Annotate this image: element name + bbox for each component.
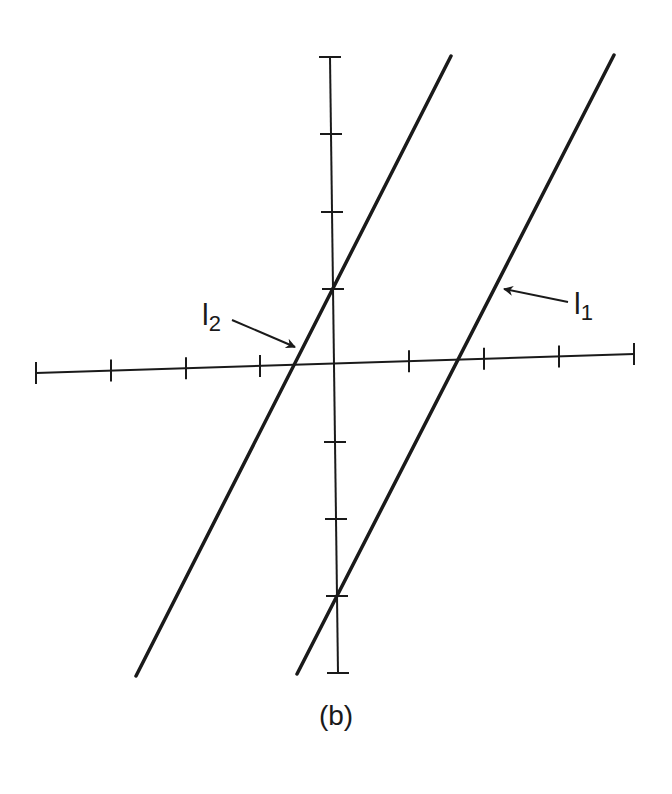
figure-caption: (b) bbox=[0, 700, 672, 732]
diagram-canvas bbox=[0, 0, 672, 794]
line-label-l2: l2 bbox=[202, 298, 221, 337]
line-label-l1-main: l bbox=[574, 287, 581, 320]
lines bbox=[136, 55, 614, 676]
arrows bbox=[232, 289, 568, 347]
line-label-l2-main: l bbox=[202, 298, 209, 331]
y-axis bbox=[330, 57, 338, 673]
line-l2 bbox=[136, 56, 451, 676]
arrow-l2 bbox=[232, 320, 295, 347]
arrow-l1 bbox=[504, 289, 568, 302]
line-label-l1: l1 bbox=[574, 287, 593, 326]
line-l1 bbox=[297, 55, 614, 674]
line-label-l2-sub: 2 bbox=[209, 311, 221, 336]
line-label-l1-sub: 1 bbox=[581, 300, 593, 325]
axes bbox=[36, 57, 634, 673]
